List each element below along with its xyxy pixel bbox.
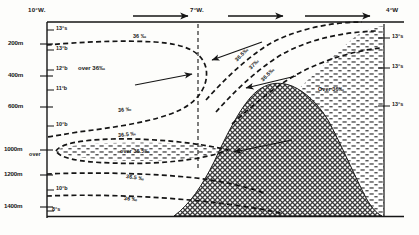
depth-label-200m: 200m: [8, 40, 23, 46]
outflow-arrow-left: [135, 74, 192, 85]
longitude-label-7w: 7°W.: [190, 7, 204, 13]
temp-label-left-1: 13°s: [56, 26, 67, 31]
temp-label-left-3: 12°b: [56, 66, 67, 71]
temp-label-right-3: 13°s: [392, 102, 403, 107]
contour-36-upper: [47, 41, 207, 137]
depth-label-1200m: 1200m: [4, 171, 22, 177]
depth-label-1000m: 1000m: [4, 146, 22, 152]
temp-label-right-2: 13°s: [392, 64, 403, 69]
left-temp-ticks: [47, 30, 54, 211]
temp-label-right-1: 13°s: [392, 34, 403, 39]
longitude-label-10w: 10°W.: [28, 7, 46, 13]
section-drawing: [0, 0, 419, 235]
depth-label-400m: 400m: [8, 72, 23, 78]
temp-label-left-4: 11°b: [56, 86, 67, 91]
temp-label-left-7: 8°s: [52, 207, 60, 212]
salinity-region-over-36-5-core: over 36.5‰: [120, 149, 150, 154]
salinity-region-over-36-right: Over 36‰: [318, 87, 344, 92]
temp-label-left-5: 10°b: [56, 122, 67, 127]
oceanographic-section-figure: 10°W. 7°W. 4°W 200m 400m 600m 1000m 1200…: [0, 0, 419, 235]
longitude-label-4w: 4°W: [386, 7, 398, 13]
depth-label-1400m: 1400m: [4, 203, 22, 209]
temp-label-left-6: 10°b: [56, 186, 67, 191]
salinity-contour-label-36-upper: 36 ‰: [133, 34, 146, 39]
salinity-region-over-left-core: over: [29, 152, 41, 157]
temp-label-left-2: 13°b: [56, 46, 67, 51]
salinity-region-over-36-left: over 36‰: [78, 65, 105, 71]
depth-label-600m: 600m: [8, 103, 23, 109]
